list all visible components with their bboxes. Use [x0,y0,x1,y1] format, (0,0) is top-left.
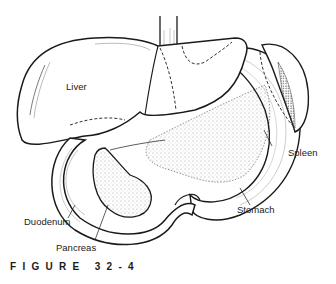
anatomy-illustration [0,0,336,284]
label-pancreas: Pancreas [56,242,96,253]
label-stomach: Stomach [237,204,275,215]
label-duodenum: Duodenum [24,216,70,227]
esophagus [160,16,177,47]
anatomy-diagram: Liver Spleen Stomach Duodenum Pancreas F… [0,0,336,284]
figure-caption: FIGURE 32-4 [10,261,140,272]
label-spleen: Spleen [288,147,318,158]
label-liver: Liver [66,81,87,92]
